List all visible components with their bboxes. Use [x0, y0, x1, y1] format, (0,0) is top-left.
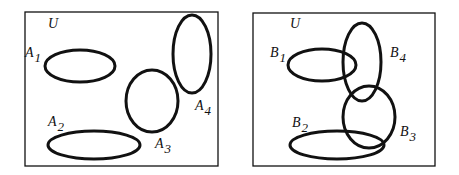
set-b3-label: B3 [400, 124, 417, 144]
set-b1-ellipse [288, 49, 356, 81]
set-b4-label: B4 [390, 45, 407, 65]
universe-label: U [290, 16, 301, 31]
set-b1-label: B1 [270, 45, 286, 65]
set-a3-ellipse [126, 70, 178, 132]
universe-frame [253, 13, 435, 166]
set-a2-ellipse [48, 131, 140, 159]
venn-panel-left: UA1A2A3A4 [24, 12, 218, 166]
set-a1-label: A1 [24, 45, 41, 65]
set-a4-ellipse [173, 15, 211, 93]
universe-frame [25, 12, 218, 166]
set-a2-label: A2 [47, 114, 65, 134]
universe-label: U [48, 16, 59, 31]
set-a1-ellipse [45, 50, 115, 82]
set-b2-ellipse [290, 131, 384, 159]
venn-diagram-canvas: UA1A2A3A4UB1B2B3B4 [0, 0, 459, 175]
venn-panel-right: UB1B2B3B4 [253, 13, 435, 166]
set-b2-label: B2 [292, 115, 309, 135]
set-a4-label: A4 [194, 98, 212, 118]
set-a3-label: A3 [154, 136, 172, 156]
set-b4-ellipse [343, 23, 381, 101]
